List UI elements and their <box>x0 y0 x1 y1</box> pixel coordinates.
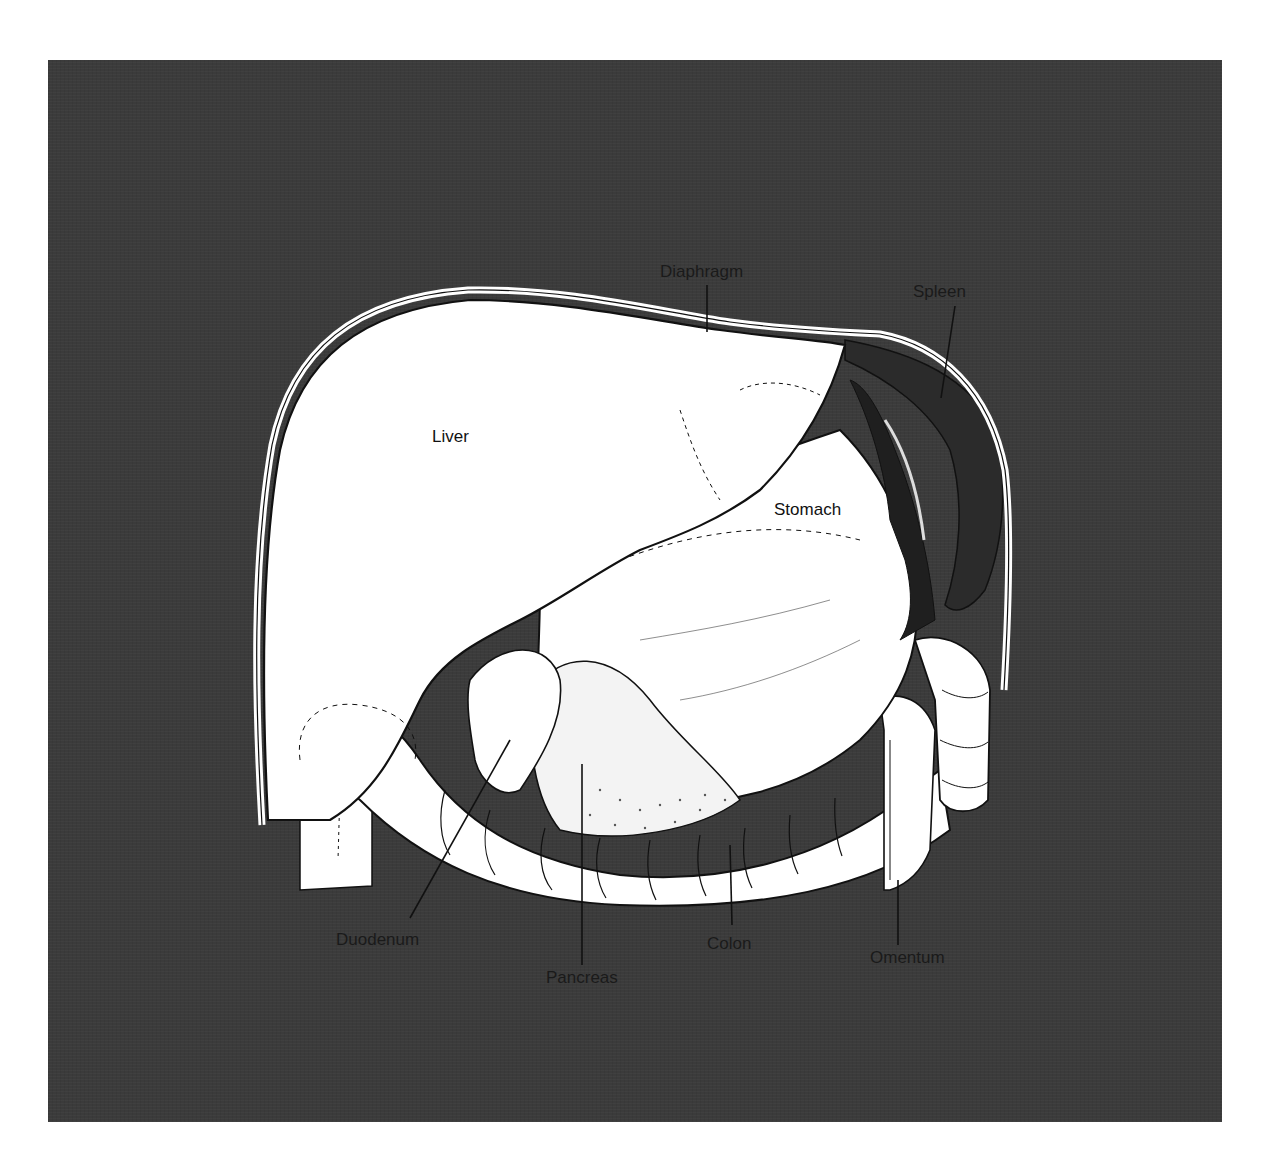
label-diaphragm: Diaphragm <box>660 262 743 282</box>
anatomy-illustration <box>0 0 1269 1171</box>
label-spleen: Spleen <box>913 282 966 302</box>
label-liver: Liver <box>432 427 469 447</box>
label-duodenum: Duodenum <box>336 930 419 950</box>
leader-colon <box>730 845 732 925</box>
label-omentum: Omentum <box>870 948 945 968</box>
label-pancreas: Pancreas <box>546 968 618 988</box>
omentum <box>880 696 935 890</box>
label-stomach: Stomach <box>774 500 841 520</box>
label-colon: Colon <box>707 934 751 954</box>
